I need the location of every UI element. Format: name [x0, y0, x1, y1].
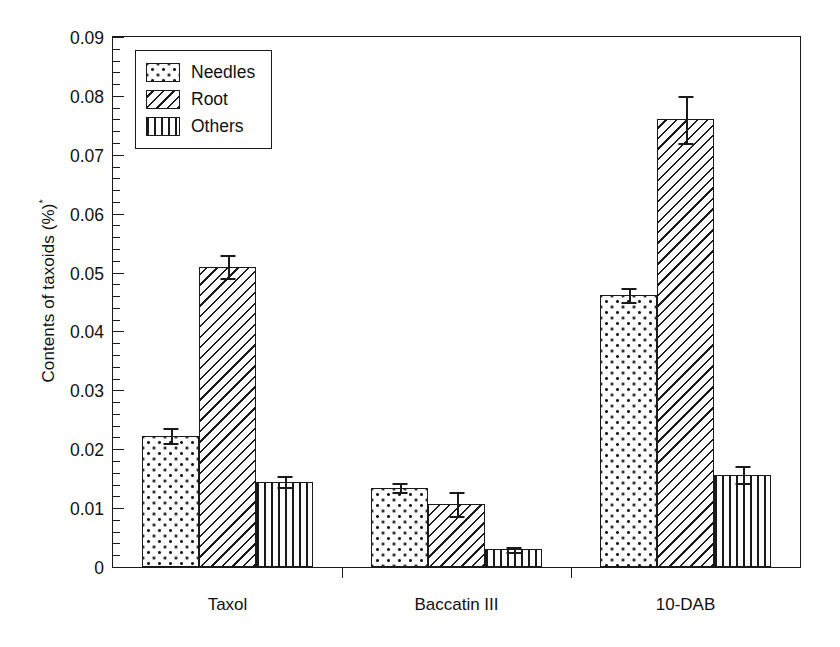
- legend-label-needles: Needles: [191, 62, 255, 83]
- y-tick-minor: [113, 119, 120, 120]
- y-tick-label: 0.05: [24, 263, 113, 284]
- bar: [142, 436, 199, 567]
- y-tick-major: 0.05: [113, 273, 124, 274]
- bar: [657, 119, 714, 567]
- y-tick-major: 0: [113, 567, 124, 568]
- bar: [714, 475, 771, 567]
- y-tick-label: 0: [24, 558, 113, 579]
- x-axis-group-label: Taxol: [208, 595, 248, 615]
- error-bar-cap: [506, 552, 521, 554]
- error-bar-cap: [220, 255, 235, 257]
- error-bar: [228, 255, 230, 279]
- y-tick-major: 0.04: [113, 331, 124, 332]
- y-tick-minor: [113, 261, 120, 262]
- bar: [600, 295, 657, 567]
- y-tick-minor: [113, 225, 120, 226]
- y-tick-label: 0.04: [24, 322, 113, 343]
- y-tick-minor: [113, 131, 120, 132]
- y-tick-label: 0.01: [24, 499, 113, 520]
- error-bar-cap: [621, 288, 636, 290]
- y-axis-title-superscript: *: [37, 199, 49, 203]
- error-bar-cap: [277, 476, 292, 478]
- y-tick-minor: [113, 296, 120, 297]
- y-tick-minor: [113, 437, 120, 438]
- y-tick-minor: [113, 485, 120, 486]
- y-tick-minor: [113, 555, 120, 556]
- error-bar: [171, 428, 173, 443]
- error-bar-cap: [678, 96, 693, 98]
- bar: [256, 482, 313, 567]
- y-tick-minor: [113, 402, 120, 403]
- x-tick: [342, 567, 343, 578]
- legend-label-root: Root: [191, 89, 228, 110]
- y-tick-label: 0.06: [24, 204, 113, 225]
- y-tick-minor: [113, 190, 120, 191]
- y-axis-title-text: Contents of taxoids (%): [39, 204, 58, 383]
- error-bar: [457, 492, 459, 517]
- y-tick-minor: [113, 143, 120, 144]
- y-tick-minor: [113, 461, 120, 462]
- y-tick-minor: [113, 367, 120, 368]
- error-bar: [743, 466, 745, 484]
- error-bar: [629, 288, 631, 302]
- y-tick-minor: [113, 72, 120, 73]
- error-bar-cap: [506, 547, 521, 549]
- legend-swatch-root-icon: [146, 90, 180, 109]
- y-tick-minor: [113, 496, 120, 497]
- error-bar-cap: [277, 487, 292, 489]
- y-tick-minor: [113, 343, 120, 344]
- y-tick-major: 0.09: [113, 37, 124, 38]
- legend-label-others: Others: [191, 116, 244, 137]
- bar: [199, 267, 256, 567]
- y-tick-major: 0.03: [113, 390, 124, 391]
- y-tick-minor: [113, 49, 120, 50]
- y-tick-minor: [113, 532, 120, 533]
- error-bar-cap: [735, 483, 750, 485]
- y-tick-minor: [113, 178, 120, 179]
- legend-item: Root: [146, 86, 255, 113]
- y-tick-minor: [113, 308, 120, 309]
- y-tick-minor: [113, 543, 120, 544]
- y-tick-minor: [113, 320, 120, 321]
- error-bar-cap: [163, 443, 178, 445]
- y-tick-minor: [113, 414, 120, 415]
- y-tick-minor: [113, 473, 120, 474]
- x-axis-group-label: 10-DAB: [656, 595, 716, 615]
- legend-swatch-others-icon: [146, 117, 180, 136]
- y-tick-minor: [113, 167, 120, 168]
- error-bar-cap: [678, 143, 693, 145]
- y-tick-major: 0.07: [113, 155, 124, 156]
- x-tick: [571, 567, 572, 578]
- y-tick-minor: [113, 426, 120, 427]
- x-axis-group-label: Baccatin III: [414, 595, 498, 615]
- error-bar-cap: [220, 278, 235, 280]
- y-tick-minor: [113, 202, 120, 203]
- y-tick-label: 0.09: [24, 28, 113, 49]
- error-bar: [686, 96, 688, 143]
- error-bar-cap: [163, 428, 178, 430]
- legend: Needles Root Others: [135, 50, 272, 149]
- error-bar-cap: [392, 492, 407, 494]
- y-tick-major: 0.08: [113, 96, 124, 97]
- y-tick-major: 0.06: [113, 214, 124, 215]
- y-tick-label: 0.02: [24, 440, 113, 461]
- bar: [371, 488, 428, 568]
- y-tick-minor: [113, 249, 120, 250]
- y-tick-minor: [113, 355, 120, 356]
- error-bar-cap: [449, 516, 464, 518]
- y-tick-minor: [113, 237, 120, 238]
- y-tick-minor: [113, 84, 120, 85]
- plot-area: 00.010.020.030.040.050.060.070.080.09 Ta…: [112, 36, 801, 568]
- error-bar-cap: [449, 492, 464, 494]
- y-tick-label: 0.08: [24, 86, 113, 107]
- error-bar-cap: [621, 302, 636, 304]
- y-tick-major: 0.01: [113, 508, 124, 509]
- y-tick-label: 0.03: [24, 381, 113, 402]
- y-tick-minor: [113, 379, 120, 380]
- error-bar-cap: [735, 466, 750, 468]
- legend-item: Others: [146, 113, 255, 140]
- y-tick-minor: [113, 520, 120, 521]
- y-tick-major: 0.02: [113, 449, 124, 450]
- y-tick-label: 0.07: [24, 145, 113, 166]
- legend-swatch-needles-icon: [146, 63, 180, 82]
